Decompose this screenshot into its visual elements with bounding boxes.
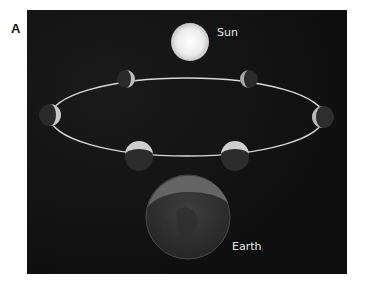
sun-label: Sun [217, 26, 238, 39]
diagram-canvas [27, 10, 347, 274]
moon-bottom-left [125, 141, 153, 171]
moon-top-right [240, 70, 258, 88]
moon-bottom-right [221, 141, 249, 171]
moon-left [39, 104, 61, 126]
moon-top-left [117, 70, 135, 88]
moon-right [312, 106, 334, 128]
panel-label: A [11, 21, 20, 36]
moon-phases-diagram: Sun Earth [27, 10, 347, 274]
sun-icon [171, 23, 209, 61]
earth-icon [146, 175, 230, 259]
earth-label: Earth [232, 240, 262, 253]
